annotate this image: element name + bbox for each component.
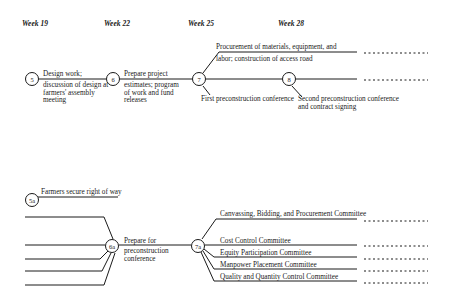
activity-procurement: Procurement of materials, equipment, and xyxy=(216,43,337,51)
week-19-label: Week 19 xyxy=(22,19,48,28)
activity-prepare-estimates: Prepare project xyxy=(124,70,168,78)
activity-prepare-preconstruction-line3: conference xyxy=(124,255,156,263)
activity-design-work-line4: meeting xyxy=(43,96,66,104)
activity-first-preconstruction-conference: First preconstruction conference xyxy=(201,95,294,103)
committee-equity-participation: Equity Participation Committee xyxy=(220,249,311,257)
continuation-dashes xyxy=(364,53,428,283)
node-7: 7 xyxy=(192,72,206,86)
activity-procurement-line2: labor; construction of access road xyxy=(216,55,313,63)
node-7a: 7a xyxy=(191,239,205,253)
activity-prepare-preconstruction: Prepare for xyxy=(124,237,156,245)
week-22-label: Week 22 xyxy=(104,19,130,28)
committee-canvassing: Canvassing, Bidding, and Procurement Com… xyxy=(220,210,366,218)
committee-quality-quantity-control: Quality and Quantity Control Committee xyxy=(220,273,338,281)
activity-right-of-way: Farmers secure right of way xyxy=(41,188,122,196)
node-6a: 6a xyxy=(105,239,119,253)
activity-contract-signing: and contract signing xyxy=(298,103,356,111)
committee-cost-control: Cost Control Committee xyxy=(220,237,291,245)
activity-design-work: Design work; xyxy=(43,70,82,78)
week-28-label: Week 28 xyxy=(278,19,304,28)
activity-prepare-estimates-line4: releases xyxy=(124,96,147,104)
node-5: 5 xyxy=(25,72,39,86)
committee-manpower-placement: Manpower Placement Committee xyxy=(220,261,317,269)
week-25-label: Week 25 xyxy=(188,19,214,28)
node-5a: 5a xyxy=(25,193,39,207)
node-8: 8 xyxy=(282,72,296,86)
